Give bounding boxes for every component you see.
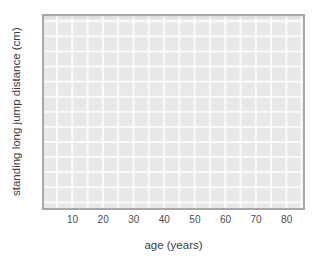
y-axis-label: standing long jump distance (cm) xyxy=(6,14,26,210)
x-tick-label: 80 xyxy=(281,214,292,226)
x-tick-label: 30 xyxy=(128,214,139,226)
x-axis-tick-labels: 1020304050607080 xyxy=(42,214,305,226)
x-axis-label: age (years) xyxy=(42,239,305,251)
x-tick-label: 20 xyxy=(98,214,109,226)
x-tick-label: 10 xyxy=(67,214,78,226)
x-tick-label: 60 xyxy=(220,214,231,226)
x-tick-label: 50 xyxy=(189,214,200,226)
x-tick-label: 40 xyxy=(159,214,170,226)
chart-figure: standing long jump distance (cm) 1020304… xyxy=(0,0,317,265)
plot-area xyxy=(42,14,305,210)
x-tick-label: 70 xyxy=(251,214,262,226)
